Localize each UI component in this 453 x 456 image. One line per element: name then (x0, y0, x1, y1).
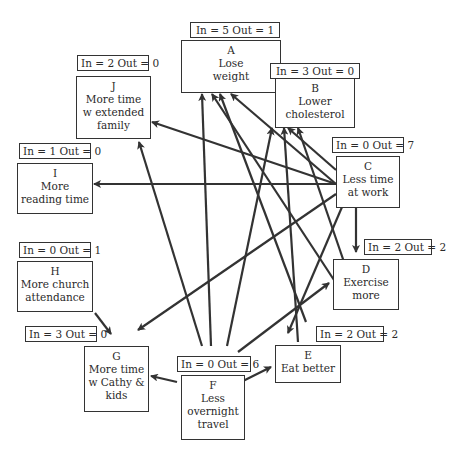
node-B-label: Lower cholesterol (276, 95, 354, 121)
node-A-letter: A (182, 44, 280, 57)
node-G-badge: In = 3 Out = 0 (25, 326, 97, 342)
node-H-letter: H (18, 265, 92, 278)
edge-C-G (138, 194, 336, 330)
node-C-badge: In = 0 Out = 7 (332, 137, 404, 153)
node-I[interactable]: I More reading time (17, 163, 93, 214)
node-C-label: Less time at work (337, 173, 399, 199)
node-E[interactable]: E Eat better (275, 345, 341, 383)
edge-E-A (220, 94, 306, 322)
node-D-letter: D (334, 263, 398, 276)
node-A-label: Lose weight (182, 57, 280, 83)
node-G-letter: G (85, 350, 148, 363)
node-F-badge: In = 0 Out = 6 (177, 356, 251, 372)
node-B[interactable]: B Lower cholesterol (275, 78, 355, 128)
edge-F-J (139, 142, 202, 346)
node-J-label: More time w extended family (77, 93, 150, 132)
node-I-letter: I (18, 167, 92, 180)
edge-C-J (152, 122, 336, 184)
edge-F-A-1 (202, 94, 211, 346)
edge-E-B (284, 128, 298, 342)
node-I-label: More reading time (18, 180, 92, 206)
node-E-label: Eat better (276, 362, 340, 375)
node-D-label: Exercise more (334, 276, 398, 302)
node-E-letter: E (276, 349, 340, 362)
node-C[interactable]: C Less time at work (336, 156, 400, 208)
node-D-badge: In = 2 Out = 2 (364, 239, 432, 255)
node-J-badge: In = 2 Out = 0 (77, 55, 149, 71)
node-F[interactable]: F Less overnight travel (181, 375, 245, 440)
node-J-letter: J (77, 80, 150, 93)
edge-F-A-2 (227, 128, 272, 346)
node-H-badge: In = 0 Out = 1 (19, 242, 91, 258)
node-E-badge: In = 2 Out = 2 (316, 326, 384, 342)
node-A[interactable]: A Lose weight (181, 40, 281, 93)
node-G-label: More time w Cathy & kids (85, 363, 148, 402)
node-F-letter: F (182, 379, 244, 392)
diagram-canvas: In = 5 Out = 1 A Lose weight In = 3 Out … (0, 0, 453, 456)
node-F-label: Less overnight travel (182, 392, 244, 431)
node-J[interactable]: J More time w extended family (76, 76, 151, 139)
node-G[interactable]: G More time w Cathy & kids (84, 346, 149, 412)
node-H[interactable]: H More church attendance (17, 261, 93, 312)
node-D[interactable]: D Exercise more (333, 259, 399, 310)
node-C-letter: C (337, 160, 399, 173)
node-B-badge: In = 3 Out = 0 (270, 63, 360, 79)
node-H-label: More church attendance (18, 278, 92, 304)
node-A-badge: In = 5 Out = 1 (190, 22, 280, 38)
node-I-badge: In = 1 Out = 0 (19, 143, 91, 159)
node-B-letter: B (276, 82, 354, 95)
edge-F-G (151, 376, 177, 382)
